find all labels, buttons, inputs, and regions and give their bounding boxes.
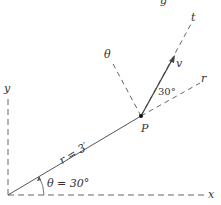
- polar-kinematics-diagram: g t θ v r 30° P y x r = 3′ θ = 30°: [0, 0, 221, 205]
- theta-label: θ: [104, 48, 111, 61]
- y-axis-label: y: [3, 82, 11, 95]
- x-axis-label: x: [208, 188, 215, 201]
- radius-label: r = 3′: [57, 140, 91, 167]
- p-label: P: [140, 122, 149, 135]
- velocity-arrowhead: [169, 55, 175, 63]
- clipped-top-glyph: g: [160, 0, 167, 7]
- r-label: r: [201, 72, 207, 85]
- theta-angle-label: θ = 30°: [47, 177, 89, 190]
- velocity-angle-label: 30°: [158, 86, 176, 97]
- v-label: v: [176, 57, 183, 70]
- t-label: t: [191, 11, 196, 24]
- point-p-dot: [139, 114, 143, 118]
- theta-direction-line: [112, 62, 141, 116]
